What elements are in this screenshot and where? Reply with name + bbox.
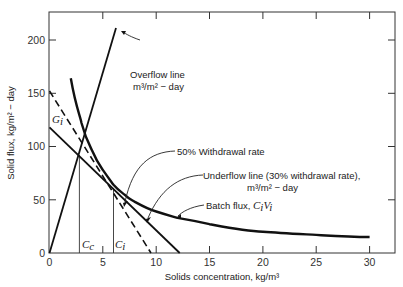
underflow-line	[50, 127, 180, 253]
x-tick-20: 20	[257, 256, 269, 268]
x-tick-30: 30	[364, 256, 376, 268]
y-tick-150: 150	[27, 87, 45, 99]
x-tick-5: 5	[100, 256, 106, 268]
withdrawal-50-line	[50, 91, 152, 253]
x-tick-15: 15	[204, 256, 216, 268]
x-axis-title: Solids concentration, kg/m³	[165, 271, 280, 282]
cc-label: Cc	[82, 238, 94, 252]
batch-flux-label: Batch flux, CiVi	[206, 199, 272, 213]
plot-frame	[49, 12, 395, 253]
withdrawal-leader	[125, 151, 175, 202]
y-tick-0: 0	[39, 247, 45, 259]
y-tick-200: 200	[27, 34, 45, 46]
gi-label: Gi	[52, 113, 63, 127]
y-axis-title: Solid flux, kg/m² − day	[5, 86, 16, 180]
withdrawal-label: 50% Withdrawal rate	[177, 146, 265, 157]
y-tick-50: 50	[33, 194, 45, 206]
x-tick-25: 25	[310, 256, 322, 268]
underflow-units: m³/m² − day	[247, 182, 298, 193]
overflow-units: m³/m² − day	[133, 81, 184, 92]
overflow-leader	[123, 32, 140, 40]
underflow-label: Underflow line (30% withdrawal rate),	[203, 170, 360, 181]
overflow-line	[50, 28, 117, 253]
batch-flux-curve	[71, 78, 370, 237]
batch-leader	[178, 205, 204, 216]
x-tick-0: 0	[47, 256, 53, 268]
ci-label: Ci	[115, 238, 125, 252]
y-tick-100: 100	[27, 140, 45, 152]
solid-flux-chart: 0 5 10 15 20 25 30 0 50 100 150 200 Soli…	[0, 0, 403, 287]
x-tick-10: 10	[150, 256, 162, 268]
overflow-label: Overflow line	[130, 69, 185, 80]
